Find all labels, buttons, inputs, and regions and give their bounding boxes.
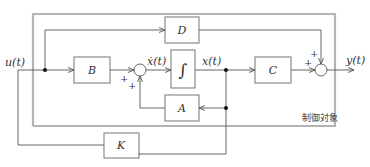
block-b: B — [74, 57, 110, 83]
signal-label-state: x(t) — [202, 55, 221, 68]
signal-label-output: y(t) — [345, 54, 365, 67]
junction-dot-state — [224, 68, 228, 72]
wire-a-to-sum1 — [140, 76, 165, 108]
summing-junction-1 — [134, 64, 146, 76]
block-d: D — [165, 17, 199, 43]
svg-text:D: D — [177, 24, 187, 37]
block-diagram: 制御対象 D B ∫ A C — [0, 0, 370, 167]
svg-text:∫: ∫ — [179, 60, 188, 80]
junction-dot-input — [43, 68, 47, 72]
block-a: A — [165, 95, 199, 121]
block-integrator: ∫ — [171, 50, 195, 88]
svg-text:A: A — [177, 102, 186, 115]
svg-text:K: K — [116, 139, 126, 152]
signal-label-input: u(t) — [5, 56, 25, 69]
svg-text:C: C — [269, 64, 278, 77]
block-k: K — [104, 133, 139, 158]
signal-label-state-derivative: ẋ(t) — [147, 55, 166, 68]
block-c: C — [255, 57, 291, 83]
sign-sum1-a: + — [128, 80, 136, 91]
junction-dot-state-lower — [224, 106, 228, 110]
svg-text:B: B — [87, 64, 96, 77]
sign-sum2-d: + — [310, 48, 318, 59]
summing-junction-2 — [315, 64, 327, 76]
plant-label: 制御対象 — [302, 112, 338, 123]
